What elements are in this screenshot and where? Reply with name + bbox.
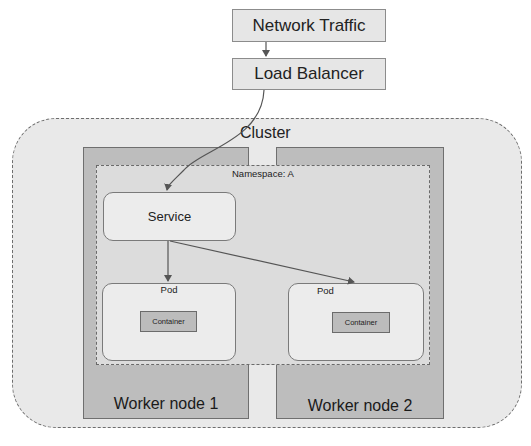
container-2-label: Container <box>345 318 378 327</box>
network-traffic-label: Network Traffic <box>252 16 365 36</box>
load-balancer-label: Load Balancer <box>254 64 364 84</box>
network-traffic-box: Network Traffic <box>232 9 386 42</box>
service-box: Service <box>103 192 236 241</box>
worker-node-2-label: Worker node 2 <box>276 397 444 415</box>
container-2: Container <box>332 312 390 333</box>
service-label: Service <box>148 209 191 224</box>
cluster-label: Cluster <box>240 124 300 142</box>
pod-2-label: Pod <box>317 285 397 296</box>
worker-node-1-label: Worker node 1 <box>83 395 249 413</box>
namespace-label: Namespace: A <box>232 168 332 179</box>
pod-1-label: Pod <box>102 284 236 295</box>
container-1: Container <box>140 311 197 332</box>
load-balancer-box: Load Balancer <box>232 58 386 90</box>
container-1-label: Container <box>152 317 185 326</box>
